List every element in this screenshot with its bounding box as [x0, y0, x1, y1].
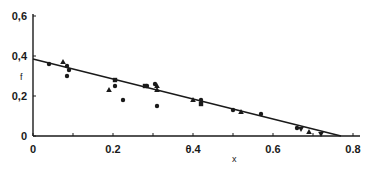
- data-point-circle: [65, 74, 69, 78]
- data-point-circle: [155, 104, 159, 108]
- data-point-circle: [113, 84, 117, 88]
- fit-line: [33, 59, 341, 136]
- data-point-square: [143, 84, 147, 88]
- data-points: [47, 59, 324, 137]
- data-point-circle: [295, 126, 299, 130]
- x-tick-label: 0.6: [265, 143, 280, 155]
- data-point-circle: [231, 108, 235, 112]
- data-point-circle: [259, 112, 263, 116]
- data-point-triangle: [306, 129, 312, 134]
- x-axis-label: x: [232, 154, 237, 164]
- x-tick-label: θ.4: [185, 143, 201, 155]
- y-axis-label: f: [20, 72, 23, 82]
- data-point-square: [113, 78, 117, 82]
- y-tick-label: 0,4: [12, 50, 28, 62]
- y-tick-label: 0,2: [12, 90, 27, 102]
- data-point-square: [199, 102, 203, 106]
- y-tick-label: 0,6: [12, 10, 27, 22]
- y-tick-label: 0: [21, 130, 27, 142]
- data-point-triangle: [106, 87, 112, 92]
- data-point-circle: [65, 64, 69, 68]
- data-point-circle: [47, 62, 51, 66]
- data-point-triangle-down: [298, 127, 304, 132]
- data-point-circle: [121, 98, 125, 102]
- data-point-triangle: [60, 59, 66, 64]
- chart: 00,20,40,6 00.2θ.40.60.8 f x: [0, 0, 373, 171]
- x-tick-label: 0: [30, 143, 36, 155]
- x-tick-label: 0.2: [105, 143, 120, 155]
- data-point-circle: [67, 68, 71, 72]
- data-point-circle: [199, 98, 203, 102]
- x-tick-label: 0.8: [345, 143, 360, 155]
